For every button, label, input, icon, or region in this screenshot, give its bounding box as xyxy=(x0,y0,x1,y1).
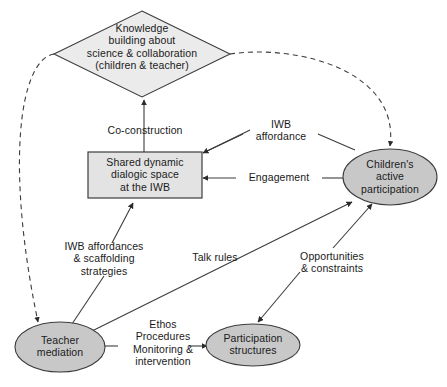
edge-opportunities-to-participation xyxy=(258,272,300,322)
edge-knowledge-to-teacher xyxy=(19,54,54,322)
node-participation-structures[interactable] xyxy=(206,324,300,366)
edge-teacher-to-shared-head xyxy=(112,203,133,243)
node-knowledge-building[interactable] xyxy=(54,11,230,97)
edge-participation-to-children xyxy=(333,204,372,248)
edge-children-to-shared-affordance-head xyxy=(203,130,250,153)
edge-teacher-to-children xyxy=(92,202,352,331)
node-shared-dialogic-space[interactable] xyxy=(88,152,202,198)
edge-teacher-to-shared xyxy=(72,276,104,324)
node-teacher-mediation[interactable] xyxy=(15,322,105,372)
node-childrens-active-participation[interactable] xyxy=(343,149,437,205)
edge-knowledge-to-children xyxy=(230,52,391,146)
diagram-graphics xyxy=(0,0,447,387)
diagram-canvas: Knowledge building about science & colla… xyxy=(0,0,447,387)
edge-children-to-shared-affordance xyxy=(205,134,355,152)
